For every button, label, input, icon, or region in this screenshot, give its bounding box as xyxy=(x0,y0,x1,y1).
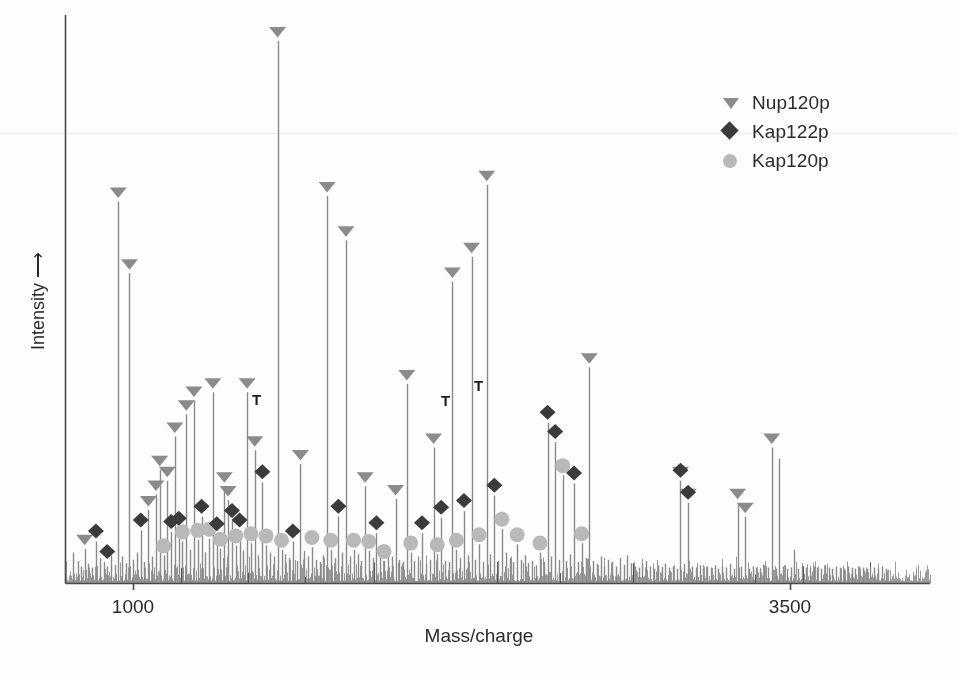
peak-annotation-t-3: T xyxy=(474,377,483,394)
figure-panel: Intensity ⟶ Mass/charge 1000 3500 Nup120… xyxy=(0,0,958,679)
legend-label-kap120p: Kap120p xyxy=(752,150,829,172)
triangle-down-icon xyxy=(718,92,744,114)
x-tick-label-1000: 1000 xyxy=(83,596,183,618)
legend-item-nup120p: Nup120p xyxy=(718,88,830,117)
legend-item-kap120p: Kap120p xyxy=(718,146,830,175)
legend-item-kap122p: Kap122p xyxy=(718,117,830,146)
peak-annotation-t-1: T xyxy=(252,391,261,408)
x-tick-label-3500: 3500 xyxy=(740,596,840,618)
legend-label-nup120p: Nup120p xyxy=(752,92,830,114)
legend-label-kap122p: Kap122p xyxy=(752,121,829,143)
peak-annotation-t-2: T xyxy=(441,392,450,409)
legend: Nup120p Kap122p Kap120p xyxy=(718,88,830,175)
y-axis-label: Intensity ⟶ xyxy=(27,201,49,401)
x-axis-label: Mass/charge xyxy=(379,625,579,647)
circle-icon xyxy=(718,150,744,172)
diamond-icon xyxy=(718,121,744,143)
